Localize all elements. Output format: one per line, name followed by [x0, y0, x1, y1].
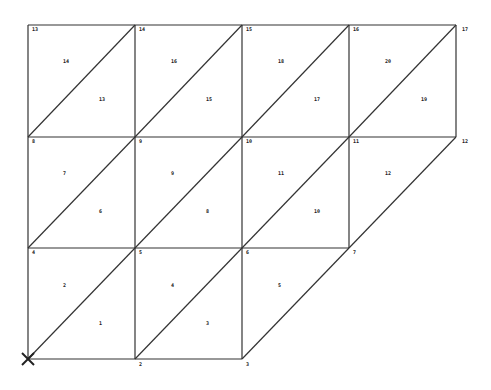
mesh-edge	[135, 25, 242, 137]
mesh-edge	[349, 137, 456, 248]
node-label: 11	[353, 138, 359, 144]
node-label: 13	[32, 26, 38, 32]
element-label: 5	[278, 282, 281, 288]
element-label: 18	[278, 58, 284, 64]
node-labels: 234567891011121314151617	[32, 26, 468, 367]
element-label: 3	[206, 320, 209, 326]
element-label: 1	[99, 320, 102, 326]
element-label: 14	[63, 58, 69, 64]
node-label: 5	[139, 249, 142, 255]
node-label: 3	[246, 361, 249, 367]
node-label: 14	[139, 26, 145, 32]
mesh-edge	[135, 248, 242, 359]
element-label: 16	[171, 58, 177, 64]
node-label: 8	[32, 138, 35, 144]
mesh-diagram: 1234567891011121314151617181920 23456789…	[0, 0, 491, 390]
node-label: 7	[353, 249, 356, 255]
element-label: 12	[385, 170, 391, 176]
element-label: 19	[421, 96, 427, 102]
mesh-edge	[349, 25, 456, 137]
element-label: 15	[206, 96, 212, 102]
element-label: 9	[171, 170, 174, 176]
node-label: 12	[462, 138, 468, 144]
element-label: 4	[171, 282, 174, 288]
mesh-edge	[28, 25, 135, 137]
element-label: 2	[63, 282, 66, 288]
node-label: 10	[246, 138, 252, 144]
mesh-edge	[242, 248, 349, 359]
element-label: 7	[63, 170, 66, 176]
mesh-edge	[28, 248, 135, 359]
node-label: 2	[139, 361, 142, 367]
node-label: 6	[246, 249, 249, 255]
node-label: 17	[462, 26, 468, 32]
mesh-edge	[28, 137, 135, 248]
mesh-edge	[242, 25, 349, 137]
node-label: 16	[353, 26, 359, 32]
element-label: 20	[385, 58, 391, 64]
element-label: 13	[99, 96, 105, 102]
element-label: 10	[314, 208, 320, 214]
mesh-edge	[135, 137, 242, 248]
element-label: 17	[314, 96, 320, 102]
element-labels: 1234567891011121314151617181920	[63, 58, 427, 326]
element-label: 11	[278, 170, 284, 176]
element-label: 6	[99, 208, 102, 214]
node-label: 15	[246, 26, 252, 32]
element-label: 8	[206, 208, 209, 214]
mesh-edges	[28, 25, 456, 359]
mesh-edge	[242, 137, 349, 248]
node-label: 4	[32, 249, 35, 255]
node-label: 9	[139, 138, 142, 144]
